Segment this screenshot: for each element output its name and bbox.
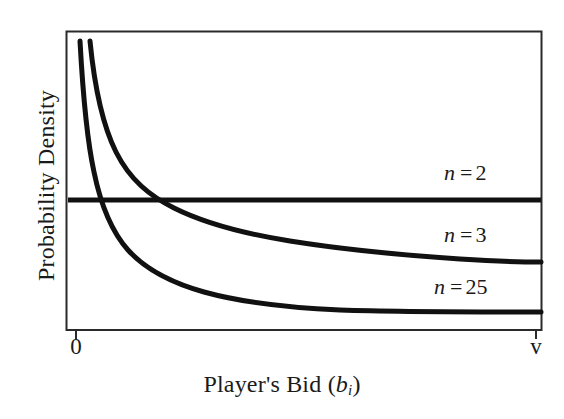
x-axis-title-main: Player's Bid (: [203, 371, 335, 397]
series-label-n2-var: n: [444, 160, 457, 185]
series-label-n3-op: =: [457, 222, 475, 247]
y-axis-title: Probability Density: [33, 36, 60, 336]
x-tick-label-vmax: v: [516, 334, 556, 360]
series-label-n25-value: 25: [465, 274, 487, 299]
series-label-n2-op: =: [457, 160, 475, 185]
series-label-n3-var: n: [444, 222, 457, 247]
series-label-n2-value: 2: [475, 160, 486, 185]
figure-root: 0 v n=2 n=3 n=25 Player's Bid (bi) Proba…: [0, 0, 564, 419]
x-axis-title-close: ): [352, 371, 360, 397]
x-tick-label-origin: 0: [56, 334, 96, 360]
series-label-n2: n=2: [444, 160, 486, 186]
series-label-n3-value: 3: [475, 222, 486, 247]
x-axis-title: Player's Bid (bi): [0, 371, 564, 399]
series-label-n3: n=3: [444, 222, 486, 248]
x-axis-title-var: b: [336, 371, 348, 397]
series-label-n25-var: n: [434, 274, 447, 299]
series-label-n25: n=25: [434, 274, 487, 300]
series-label-n25-op: =: [447, 274, 465, 299]
